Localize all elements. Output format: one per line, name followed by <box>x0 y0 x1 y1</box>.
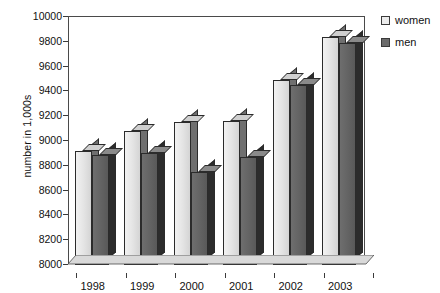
x-tick-mark <box>175 273 176 278</box>
x-tick-mark <box>373 273 374 278</box>
x-tick-label: 2002 <box>266 280 316 292</box>
x-tick-mark <box>126 273 127 278</box>
legend-item-women[interactable]: women <box>381 14 439 26</box>
x-tick-label: 2003 <box>315 280 365 292</box>
x-tick-mark <box>76 273 77 278</box>
x-tick-mark <box>225 273 226 278</box>
x-tick-label: 1998 <box>68 280 118 292</box>
legend-swatch-women-icon <box>381 16 390 25</box>
legend-label-women: women <box>395 15 430 26</box>
x-tick-mark <box>324 273 325 278</box>
x-tick-label: 2000 <box>167 280 217 292</box>
legend-item-men[interactable]: men <box>381 36 439 48</box>
x-tick-label: 2001 <box>216 280 266 292</box>
x-tick-mark <box>274 273 275 278</box>
bar-chart: number in 1,000s 80008200840086008800900… <box>0 0 440 293</box>
x-tick-label: 1999 <box>117 280 167 292</box>
chart-legend: women men <box>381 14 439 58</box>
legend-label-men: men <box>395 37 416 48</box>
legend-swatch-men-icon <box>381 38 390 47</box>
x-axis-tick-labels: 199819992000200120022003 <box>0 0 440 293</box>
